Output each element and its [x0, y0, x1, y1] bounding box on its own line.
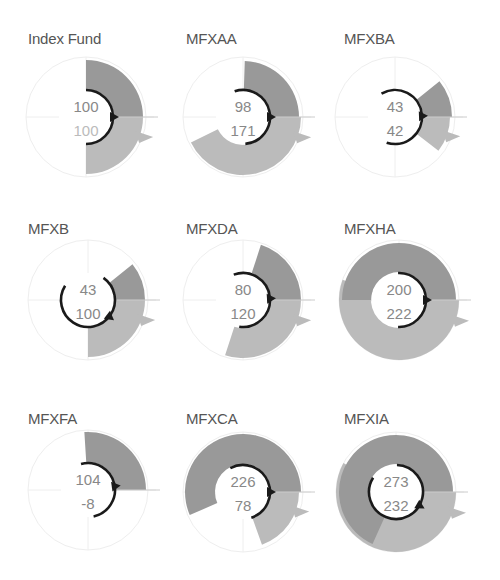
- top-value-label: 43: [80, 281, 97, 298]
- top-value-label: 100: [73, 98, 98, 115]
- top-value-label: 273: [383, 473, 408, 490]
- bottom-marker-icon: [293, 131, 311, 143]
- chart-panel: MFXHA 200222: [344, 220, 500, 410]
- bottom-marker-icon: [291, 506, 309, 518]
- bottom-value-label: 42: [387, 122, 404, 139]
- radial-chart: 104-8: [28, 410, 198, 580]
- bottom-value-label: 171: [230, 122, 255, 139]
- bottom-marker-icon: [442, 130, 460, 142]
- bottom-value-label: 78: [235, 497, 252, 514]
- chart-panel: Index Fund 100100: [28, 30, 188, 220]
- bottom-value-label: 232: [383, 497, 408, 514]
- chart-panel: MFXIA 273232: [344, 410, 500, 580]
- chart-panel: MFXBA 4342: [344, 30, 500, 220]
- bottom-value-label: 100: [75, 305, 100, 322]
- top-value-label: 98: [235, 98, 252, 115]
- bottom-value-label: 100: [73, 122, 98, 139]
- chart-panel: MFXFA 104-8: [28, 410, 188, 580]
- radial-chart: 80120: [186, 220, 356, 410]
- chart-panel: MFXAA 98171: [186, 30, 346, 220]
- radial-chart: 98171: [186, 30, 356, 220]
- radial-chart: 100100: [28, 30, 198, 220]
- radial-chart: 200222: [344, 220, 500, 410]
- bottom-value-label: 222: [386, 305, 411, 322]
- bottom-value-label: 120: [230, 305, 255, 322]
- radial-chart: 273232: [344, 410, 500, 580]
- radial-chart: 4342: [344, 30, 500, 220]
- top-value-label: 80: [235, 281, 252, 298]
- radial-chart: 22678: [186, 410, 356, 580]
- top-value-label: 200: [386, 281, 411, 298]
- chart-panel: MFXB 43100: [28, 220, 188, 410]
- radial-chart: 43100: [28, 220, 198, 410]
- bottom-value-label: -8: [81, 495, 94, 512]
- chart-panel: MFXCA 22678: [186, 410, 346, 580]
- top-value-label: 43: [387, 98, 404, 115]
- top-value-label: 226: [230, 473, 255, 490]
- bottom-marker-icon: [293, 314, 311, 326]
- top-value-label: 104: [75, 471, 100, 488]
- chart-panel: MFXDA 80120: [186, 220, 346, 410]
